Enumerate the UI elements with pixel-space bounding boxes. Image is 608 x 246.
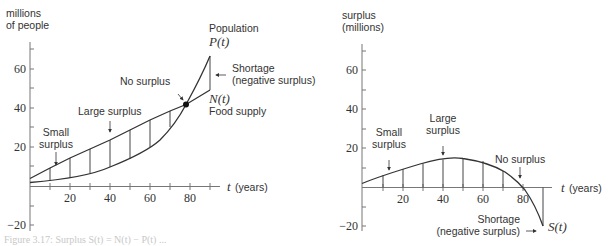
small-surplus-label-1: Small (43, 126, 69, 138)
small-surplus-label-2: surplus (39, 138, 73, 150)
right-small-surplus-label-2: surplus (372, 138, 406, 150)
s-symbol: S(t) (548, 219, 567, 234)
left-xlabel-t: t (227, 179, 231, 194)
left-y-ticks (30, 49, 34, 225)
right-no-surplus-label: No surplus (495, 153, 545, 165)
right-xtick-40: 40 (437, 192, 449, 206)
right-ytick-40: 40 (346, 102, 358, 116)
left-xlabel-unit: (years) (235, 181, 268, 193)
left-xtick-40: 40 (104, 191, 116, 205)
population-symbol: P(t) (208, 34, 229, 49)
right-large-surplus-label-1: Large (430, 112, 457, 124)
right-large-surplus-label-2: surplus (426, 124, 460, 136)
left-xtick-80: 80 (184, 191, 196, 205)
left-ylabel-line2: of people (6, 19, 49, 31)
no-surplus-arrow (178, 94, 183, 100)
right-ytick-20: 20 (346, 141, 358, 155)
figure-caption: Figure 3.17: Surplus S(t) = N(t) − P(t) … (4, 234, 166, 245)
figure: millions of people 60 40 20 −20 (0, 0, 608, 246)
left-ytick-20: 20 (14, 140, 26, 154)
population-label: Population (209, 22, 259, 34)
shortage-label-2: (negative surplus) (232, 74, 315, 86)
intersection-point (183, 102, 189, 108)
right-small-surplus-label-1: Small (376, 126, 402, 138)
right-xlabel-unit: (years) (569, 182, 602, 194)
right-y-ticks (362, 51, 366, 226)
right-ylabel-line1: surplus (342, 9, 376, 21)
left-ytick-40: 40 (14, 101, 26, 115)
right-shortage-label-2: (negative surplus) (437, 225, 520, 237)
no-surplus-label: No surplus (120, 75, 170, 87)
right-chart: surplus (millions) 60 40 20 −20 (339, 9, 601, 237)
right-xlabel-t: t (561, 180, 565, 195)
right-xtick-60: 60 (477, 192, 489, 206)
left-ytick-neg20: −20 (7, 218, 26, 232)
food-label: Food supply (209, 105, 267, 117)
right-shortage-label-1: Shortage (477, 213, 520, 225)
food-symbol: N(t) (208, 91, 230, 106)
right-ytick-neg20: −20 (339, 219, 358, 233)
large-surplus-label: Large surplus (78, 105, 142, 117)
left-ytick-60: 60 (14, 62, 26, 76)
left-chart: millions of people 60 40 20 −20 (6, 7, 315, 232)
right-xtick-20: 20 (397, 192, 409, 206)
shortage-label-1: Shortage (232, 62, 275, 74)
left-ylabel-line1: millions (6, 7, 41, 19)
left-xtick-20: 20 (64, 191, 76, 205)
left-xtick-60: 60 (144, 191, 156, 205)
right-ytick-60: 60 (346, 63, 358, 77)
right-ylabel-line2: (millions) (342, 21, 384, 33)
